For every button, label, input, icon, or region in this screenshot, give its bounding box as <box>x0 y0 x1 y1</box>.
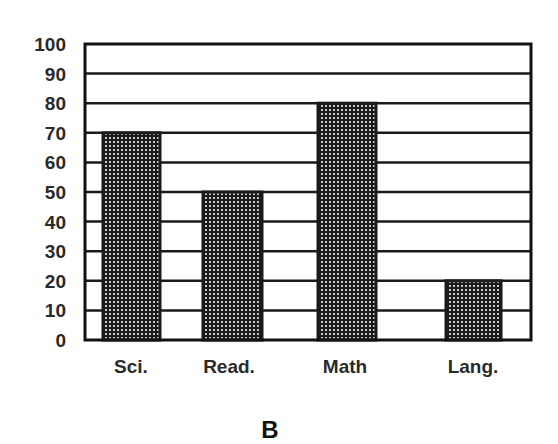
y-tick-label: 70 <box>45 123 66 144</box>
x-tick-label: Read. <box>203 356 255 377</box>
y-tick-label: 50 <box>45 182 66 203</box>
y-axis-ticks: 0102030405060708090100 <box>34 34 66 351</box>
bar-chart: 0102030405060708090100 Sci.Read.MathLang… <box>0 0 558 444</box>
x-tick-label: Sci. <box>114 356 148 377</box>
bar-sci <box>103 133 160 340</box>
bar-math <box>318 103 376 340</box>
y-tick-label: 90 <box>45 64 66 85</box>
y-tick-label: 40 <box>45 212 66 233</box>
y-tick-label: 20 <box>45 271 66 292</box>
y-tick-label: 30 <box>45 241 66 262</box>
x-axis-ticks: Sci.Read.MathLang. <box>114 356 498 377</box>
y-tick-label: 100 <box>34 34 66 55</box>
x-tick-label: Lang. <box>448 356 499 377</box>
x-tick-label: Math <box>323 356 367 377</box>
y-tick-label: 10 <box>45 300 66 321</box>
y-tick-label: 60 <box>45 152 66 173</box>
figure-caption: B <box>261 416 278 443</box>
bar-lang <box>446 281 501 340</box>
bar-read <box>203 192 262 340</box>
y-tick-label: 0 <box>55 330 66 351</box>
y-tick-label: 80 <box>45 93 66 114</box>
